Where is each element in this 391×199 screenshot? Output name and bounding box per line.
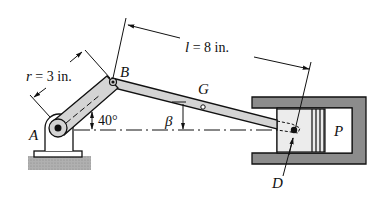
crank-dimension-label: r = 3 in. [26, 68, 72, 84]
mass-center-G [201, 105, 205, 109]
pin-D [291, 127, 297, 133]
label-P: P [333, 123, 343, 139]
label-G: G [198, 81, 209, 97]
dimension-arrow [128, 25, 180, 38]
ground-hatch [28, 156, 91, 170]
dimension-arrow [34, 88, 46, 97]
pin-B-center [111, 80, 114, 83]
label-D: D [271, 175, 283, 191]
pin-A [55, 125, 62, 132]
rod-dimension-label: l = 8 in. [185, 39, 229, 55]
label-beta: β [164, 113, 173, 129]
label-A: A [28, 127, 39, 143]
extension-line [85, 50, 110, 78]
label-B: B [120, 64, 129, 80]
slider-crank-diagram: r = 3 in. l = 8 in. A B G β 40° P D [0, 0, 391, 199]
extension-line [30, 95, 50, 117]
dimension-arrow [70, 52, 82, 62]
piston [277, 109, 325, 152]
dimension-arrow [254, 57, 309, 69]
label-angle-40: 40° [98, 113, 118, 128]
base-plate [34, 151, 82, 157]
